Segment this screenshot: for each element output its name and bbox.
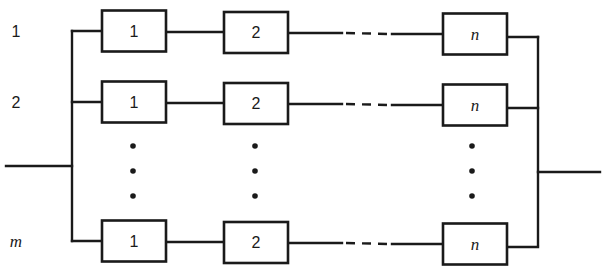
- component-label: 2: [252, 24, 261, 41]
- diagram-svg: 112n212nm12n: [0, 0, 607, 274]
- row-label: m: [10, 232, 22, 251]
- component-label: n: [471, 25, 480, 44]
- row-label: 2: [12, 94, 21, 111]
- ellipsis-dot: [469, 143, 475, 149]
- ellipsis-dot: [252, 193, 258, 199]
- ellipsis-dot: [469, 193, 475, 199]
- component-label: 1: [130, 233, 139, 250]
- wire-2-dashed: [346, 243, 390, 244]
- wire-2-dashed: [346, 104, 390, 105]
- component-label: 1: [130, 23, 139, 40]
- ellipsis-dot: [252, 168, 258, 174]
- component-label: 1: [130, 94, 139, 111]
- ellipsis-dot: [130, 193, 136, 199]
- reliability-diagram: 112n212nm12n: [0, 0, 607, 274]
- ellipsis-dot: [130, 168, 136, 174]
- component-label: n: [471, 96, 480, 115]
- component-label: n: [471, 235, 480, 254]
- ellipsis-dot: [130, 143, 136, 149]
- ellipsis-dot: [469, 168, 475, 174]
- wire-2-dashed: [346, 33, 390, 34]
- ellipsis-dot: [252, 143, 258, 149]
- row-label: 1: [12, 23, 21, 40]
- component-label: 2: [252, 234, 261, 251]
- component-label: 2: [252, 95, 261, 112]
